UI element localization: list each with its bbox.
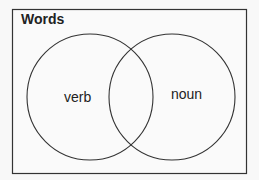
- set-label-verb: verb: [64, 89, 91, 105]
- universe-title: Words: [21, 11, 64, 27]
- set-label-noun: noun: [171, 86, 202, 102]
- venn-diagram: [0, 0, 259, 180]
- universe-box: [13, 10, 247, 174]
